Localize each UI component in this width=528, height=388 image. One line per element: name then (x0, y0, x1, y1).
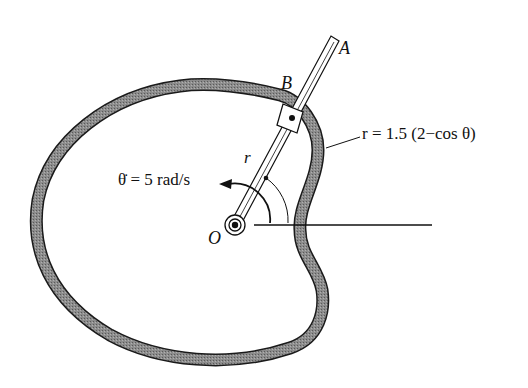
label-point-b: B (281, 73, 292, 94)
label-angular-velocity: θ̇ = 5 rad/s (118, 170, 190, 190)
label-radius: r (244, 148, 251, 168)
pivot-o (225, 215, 245, 235)
rod-oa (231, 36, 339, 228)
label-origin: O (208, 228, 221, 249)
diagram-canvas: A B r O r = 1.5 (2−cos θ) θ̇ = 5 rad/s (0, 0, 528, 388)
diagram-svg (0, 0, 528, 388)
theta-angle-arc (264, 176, 288, 223)
label-point-a: A (339, 38, 350, 59)
label-equation: r = 1.5 (2−cos θ) (362, 124, 476, 144)
equation-leader (326, 137, 360, 148)
